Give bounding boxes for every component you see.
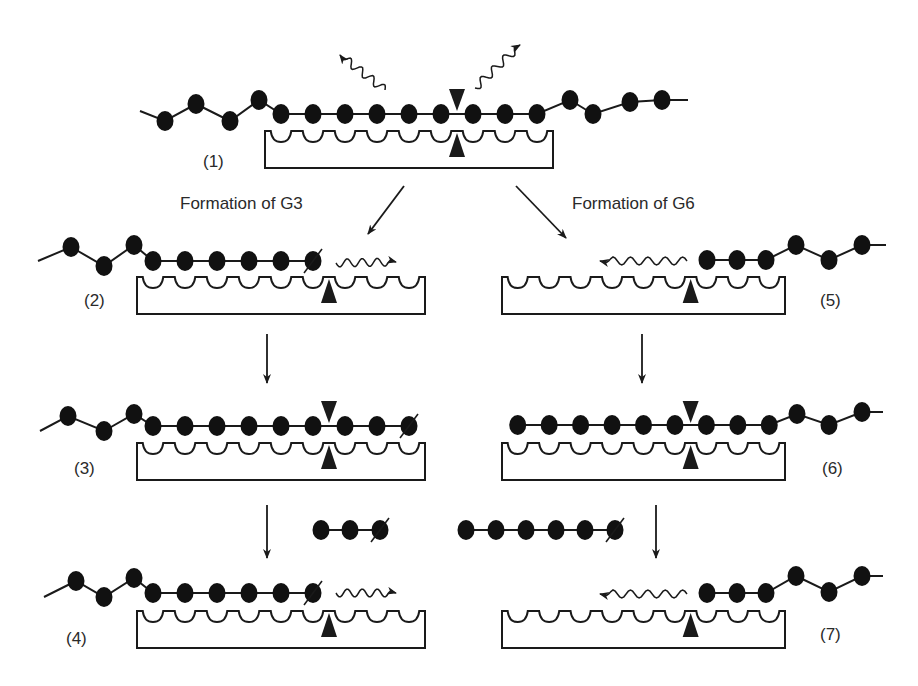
enzyme-body [137, 277, 425, 314]
arrows-layer [267, 45, 687, 598]
catalytic-site-marker [321, 445, 337, 469]
chain-panel-2 [38, 235, 322, 276]
water-depart [336, 589, 396, 597]
chain-panel-3 [40, 404, 418, 441]
glucose-residue [758, 250, 775, 270]
glucose-residue [666, 415, 683, 435]
glucose-residue [654, 90, 671, 110]
glucose-residue [622, 92, 639, 112]
glucose-residue [337, 104, 354, 124]
glucose-residue [273, 251, 290, 271]
glucose-residue [758, 583, 775, 603]
glucose-residue [209, 416, 226, 436]
chain-panel-5 [699, 235, 887, 270]
glucose-residue [729, 583, 746, 603]
glucose-residue [96, 256, 113, 276]
glucose-residue [177, 416, 194, 436]
panel-label-6: (6) [822, 459, 843, 478]
glucose-residue [209, 251, 226, 271]
glucose-residue [635, 415, 652, 435]
catalytic-site-marker [683, 613, 699, 637]
catalytic-site-marker [683, 445, 699, 469]
catalytic-site-marker [683, 279, 699, 303]
glucose-residue [313, 520, 330, 540]
glucose-residue [126, 235, 143, 255]
cleavage-site-marker [449, 89, 465, 111]
cleavage-site-marker [683, 401, 699, 423]
glucose-residue [251, 90, 268, 110]
panel-label-3: (3) [74, 459, 95, 478]
caption-formation-g6: Formation of G6 [572, 194, 695, 213]
glucose-residue [177, 583, 194, 603]
glucose-residue [789, 404, 806, 424]
enzyme-panel-4 [137, 611, 425, 648]
glucose-residue [562, 90, 579, 110]
glucose-residue [96, 421, 113, 441]
enzyme-panel-5 [502, 277, 785, 314]
glucose-residue [497, 104, 514, 124]
glucose-residue [699, 583, 716, 603]
diagram-canvas: Formation of G3 Formation of G6 (1) (2) … [0, 0, 918, 686]
glucose-residue [761, 415, 778, 435]
glucose-residue [465, 104, 482, 124]
enzyme-body [137, 611, 425, 648]
glucose-residue [222, 111, 239, 131]
catalytic-site-marker [321, 613, 337, 637]
glucose-residue [126, 568, 143, 588]
panel-label-1: (1) [203, 152, 224, 171]
catalytic-site-marker [321, 279, 337, 303]
enzyme-body [502, 611, 785, 648]
glucose-residue [60, 406, 77, 426]
chain-product-g3 [313, 518, 390, 542]
arrow-to-g3-path [368, 186, 404, 234]
glucose-residue [518, 520, 535, 540]
glucose-residue [157, 111, 174, 131]
glucose-residue [821, 415, 838, 435]
glucose-residue [342, 520, 359, 540]
enzyme-panel-6 [502, 401, 785, 480]
panel-label-4: (4) [66, 629, 87, 648]
enzyme-body [265, 131, 553, 168]
panel-label-7: (7) [820, 625, 841, 644]
glucose-residue [145, 416, 162, 436]
glucose-residue [548, 520, 565, 540]
glucose-residue [821, 582, 838, 602]
glucose-residue [145, 583, 162, 603]
water-approach [336, 259, 396, 267]
water-approach-left [600, 257, 687, 265]
glucose-residue [241, 251, 258, 271]
enzyme-panel-3 [137, 401, 425, 480]
glucose-residue [68, 571, 85, 591]
glucose-residue [854, 566, 871, 586]
catalytic-site-marker [449, 133, 465, 157]
arrow-to-g6-path [516, 186, 566, 238]
glucose-residue [96, 587, 113, 607]
glucose-residue [604, 415, 621, 435]
glucose-residue [241, 583, 258, 603]
glucose-residue [145, 251, 162, 271]
enzyme-body [502, 443, 785, 480]
glucose-residue [126, 404, 143, 424]
panel-label-5: (5) [820, 291, 841, 310]
glucose-residue [458, 520, 475, 540]
glucose-residue [509, 415, 526, 435]
glucose-residue [529, 104, 546, 124]
enzyme-panel-7 [502, 611, 785, 648]
chain-panel-1 [140, 90, 688, 131]
glucose-residue [788, 235, 805, 255]
glucose-residue [209, 583, 226, 603]
glucose-residue [369, 104, 386, 124]
mechanism-diagram: Formation of G3 Formation of G6 (1) (2) … [0, 0, 918, 686]
caption-formation-g3: Formation of G3 [180, 194, 303, 213]
enzyme-body [502, 277, 785, 314]
glucose-residue [788, 566, 805, 586]
cleavage-site-marker [321, 401, 337, 423]
enzyme-panel-1 [265, 89, 553, 168]
glucose-residue [821, 250, 838, 270]
glucose-residue [854, 402, 871, 422]
enzyme-body [137, 443, 425, 480]
enzymes-layer [137, 89, 785, 648]
enzyme-panel-2 [137, 277, 425, 314]
glucose-residue [63, 237, 80, 257]
glucose-residue [433, 104, 450, 124]
